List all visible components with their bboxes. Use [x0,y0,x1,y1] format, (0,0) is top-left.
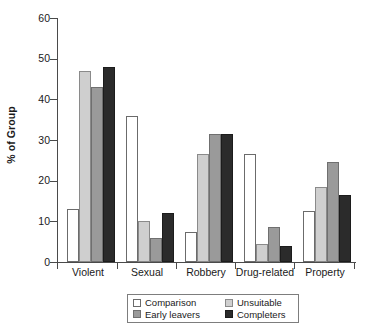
bar-drug-related-completers [280,246,292,262]
bar-drug-related-unsuitable [256,244,268,262]
y-tick-label-40: 40 [38,94,50,105]
legend-label-early-leavers: Early leavers [145,310,200,320]
x-label-robbery: Robbery [186,266,226,278]
bar-group-robbery [176,18,235,262]
legend-swatch-completers-icon [225,310,233,318]
bar-robbery-completers [221,134,233,262]
bar-group-drug-related [235,18,294,262]
bar-group-violent [58,18,117,262]
bar-property-early [327,162,339,262]
bar-sexual-completers [162,213,174,262]
legend-row-1: Comparison Unsuitable [133,298,293,308]
bar-sexual-unsuitable [138,221,150,262]
bar-robbery-comparison [185,232,197,263]
bar-drug-related-comparison [244,154,256,262]
bar-violent-unsuitable [79,71,91,262]
bar-violent-comparison [67,209,79,262]
bar-group-sexual [117,18,176,262]
x-label-violent: Violent [72,266,104,278]
y-tick-60 [50,18,57,19]
x-label-property: Property [305,266,345,278]
bar-property-comparison [303,211,315,262]
legend: Comparison Unsuitable Early leavers Comp… [127,294,299,323]
bar-property-unsuitable [315,187,327,262]
y-axis-title-label: % of Group [5,106,17,164]
legend-label-comparison: Comparison [145,298,196,308]
legend-item-unsuitable: Unsuitable [225,298,282,308]
y-tick-0 [50,262,57,263]
y-tick-label-20: 20 [38,175,50,186]
legend-item-comparison: Comparison [133,298,225,308]
x-axis-line [57,262,356,263]
legend-label-unsuitable: Unsuitable [237,298,282,308]
legend-swatch-early-leavers-icon [133,310,141,318]
bar-sexual-early [150,238,162,262]
plot-area [58,18,356,262]
y-tick-20 [50,181,57,182]
bar-violent-completers [103,67,115,262]
bar-chart: % of Group 0 10 20 30 40 50 60 [0,0,367,334]
bar-violent-early [91,87,103,262]
bar-group-property [294,18,354,262]
legend-label-completers: Completers [237,310,286,320]
y-tick-30 [50,140,57,141]
x-label-sexual: Sexual [131,266,163,278]
bar-robbery-unsuitable [197,154,209,262]
legend-swatch-unsuitable-icon [225,299,233,307]
y-tick-label-60: 60 [38,13,50,24]
bar-robbery-early [209,134,221,262]
legend-item-completers: Completers [225,310,286,320]
y-tick-label-10: 10 [38,216,50,227]
x-axis-tick-labels: Violent Sexual Robbery Drug-related Prop… [0,266,367,282]
y-axis-tick-labels: 0 10 20 30 40 50 60 [26,18,50,262]
y-axis-title: % of Group [0,0,22,270]
legend-item-early-leavers: Early leavers [133,310,225,320]
y-tick-label-30: 30 [38,135,50,146]
bar-drug-related-early [268,227,280,262]
y-tick-50 [50,59,57,60]
x-label-drug-related: Drug-related [236,266,294,278]
y-tick-40 [50,99,57,100]
bar-sexual-comparison [126,116,138,262]
y-tick-label-50: 50 [38,53,50,64]
y-tick-10 [50,221,57,222]
legend-row-2: Early leavers Completers [133,310,293,320]
bar-property-completers [339,195,351,262]
legend-swatch-comparison-icon [133,299,141,307]
